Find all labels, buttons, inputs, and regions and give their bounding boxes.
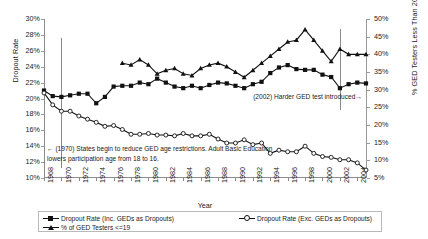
data-point-filled-square	[303, 68, 307, 72]
data-point-filled-triangle	[120, 61, 125, 66]
data-point-open-circle	[94, 120, 98, 124]
chart-legend: Dropout Rate (Inc. GEDs as Dropouts) Dro…	[38, 211, 382, 232]
data-point-open-circle	[207, 132, 211, 136]
data-point-open-circle	[146, 131, 150, 135]
filled-square-marker-icon	[43, 214, 59, 222]
data-point-filled-square	[94, 101, 98, 105]
data-point-filled-square	[338, 86, 342, 90]
data-point-open-circle	[120, 128, 124, 132]
data-point-filled-triangle	[303, 27, 308, 32]
data-point-filled-square	[259, 80, 263, 84]
data-point-open-circle	[199, 134, 203, 138]
data-point-filled-square	[364, 81, 368, 85]
data-point-open-circle	[364, 168, 368, 172]
data-point-filled-square	[77, 92, 81, 96]
data-point-filled-square	[68, 93, 72, 97]
chart-container: Dropout Rate % GED Testers Less Than 20 …	[0, 0, 428, 239]
legend-item-exc-geds[interactable]: Dropout Rate (Exc. GEDs as Dropouts)	[239, 214, 372, 222]
legend-row-2: % of GED Testers <=19	[43, 224, 377, 234]
data-point-filled-square	[251, 82, 255, 86]
data-point-open-circle	[138, 132, 142, 136]
data-point-filled-square	[294, 67, 298, 71]
data-point-filled-square	[242, 86, 246, 90]
data-point-filled-square	[216, 81, 220, 85]
data-point-filled-square	[164, 81, 168, 85]
data-point-open-circle	[42, 91, 46, 95]
data-point-filled-square	[286, 63, 290, 67]
data-point-open-circle	[242, 138, 246, 142]
data-point-open-circle	[155, 133, 159, 137]
data-point-open-circle	[181, 131, 185, 135]
data-point-open-circle	[86, 117, 90, 121]
data-point-open-circle	[112, 124, 116, 128]
annotation-2002: (2002) Harder GED test introduced→	[182, 92, 362, 101]
data-point-open-circle	[103, 124, 107, 128]
data-point-filled-square	[277, 65, 281, 69]
data-point-open-circle	[164, 133, 168, 137]
data-point-open-circle	[77, 114, 81, 118]
data-point-filled-square	[312, 68, 316, 72]
legend-item-inc-geds[interactable]: Dropout Rate (Inc. GEDs as Dropouts)	[43, 214, 239, 222]
data-point-open-circle	[173, 134, 177, 138]
data-point-filled-square	[199, 86, 203, 90]
data-point-filled-square	[129, 84, 133, 88]
filled-triangle-marker-icon	[43, 224, 59, 232]
data-point-open-circle	[216, 137, 220, 141]
data-point-open-circle	[312, 151, 316, 155]
legend-label-ged-testers: % of GED Testers <=19	[61, 224, 130, 231]
data-point-filled-square	[355, 81, 359, 85]
data-point-open-circle	[51, 103, 55, 107]
data-point-filled-square	[146, 82, 150, 86]
data-point-filled-triangle	[146, 62, 151, 67]
data-point-filled-triangle	[172, 66, 177, 71]
data-point-filled-square	[346, 82, 350, 86]
data-point-filled-square	[329, 75, 333, 79]
data-point-filled-square	[138, 81, 142, 85]
data-point-filled-square	[59, 95, 63, 99]
data-point-open-circle	[129, 132, 133, 136]
data-point-filled-square	[181, 86, 185, 90]
open-circle-marker-icon	[239, 214, 255, 222]
data-point-open-circle	[190, 134, 194, 138]
data-point-filled-square	[233, 84, 237, 88]
series-layer	[0, 0, 428, 239]
data-point-filled-square	[103, 95, 107, 99]
data-point-open-circle	[59, 109, 63, 113]
series-line-2	[122, 30, 366, 78]
legend-item-ged-testers[interactable]: % of GED Testers <=19	[43, 224, 239, 232]
data-point-filled-triangle	[137, 57, 142, 62]
data-point-open-circle	[338, 158, 342, 162]
data-point-open-circle	[320, 155, 324, 159]
data-point-open-circle	[347, 158, 351, 162]
data-point-filled-square	[51, 94, 55, 98]
data-point-filled-square	[85, 92, 89, 96]
data-point-filled-triangle	[233, 69, 238, 74]
data-point-open-circle	[329, 155, 333, 159]
annotation-1970: ← (1970) States begin to reduce GED age …	[47, 144, 279, 163]
data-point-filled-square	[225, 81, 229, 85]
data-point-filled-square	[120, 84, 124, 88]
legend-label-exc-geds: Dropout Rate (Exc. GEDs as Dropouts)	[257, 215, 372, 222]
data-point-filled-square	[320, 73, 324, 77]
data-point-filled-square	[172, 84, 176, 88]
data-point-filled-square	[268, 71, 272, 75]
data-point-filled-square	[207, 83, 211, 87]
data-point-open-circle	[303, 144, 307, 148]
data-point-open-circle	[286, 150, 290, 154]
data-point-filled-triangle	[337, 46, 342, 51]
data-point-open-circle	[355, 161, 359, 165]
data-point-filled-triangle	[216, 61, 221, 66]
data-point-open-circle	[68, 109, 72, 113]
data-point-filled-square	[155, 77, 159, 81]
legend-row-1: Dropout Rate (Inc. GEDs as Dropouts) Dro…	[43, 214, 377, 224]
data-point-open-circle	[294, 150, 298, 154]
legend-label-inc-geds: Dropout Rate (Inc. GEDs as Dropouts)	[61, 215, 174, 222]
data-point-filled-square	[112, 84, 116, 88]
data-point-filled-square	[190, 84, 194, 88]
data-point-filled-triangle	[181, 71, 186, 76]
